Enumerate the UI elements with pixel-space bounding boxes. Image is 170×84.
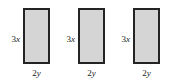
rectangle-3-shape <box>133 8 160 64</box>
rectangle-2-width-variable: y <box>92 68 96 78</box>
rectangle-1-shape <box>23 8 50 64</box>
rectangle-3-height-label: 3x <box>114 33 130 45</box>
rectangle-1-height-variable: x <box>16 34 20 44</box>
rectangle-3-height-variable: x <box>126 34 130 44</box>
geometry-figure: 3x 2y 3x 2y 3x 2y <box>0 0 170 84</box>
rectangle-1-width-variable: y <box>37 68 41 78</box>
rectangle-2-width-label: 2y <box>76 67 107 79</box>
rectangle-3-width-variable: y <box>147 68 151 78</box>
rectangle-2-height-variable: x <box>71 34 75 44</box>
rectangle-1-width-label: 2y <box>21 67 52 79</box>
rectangle-3-width-label: 2y <box>131 67 162 79</box>
rectangle-group-3: 3x 2y <box>111 0 170 84</box>
rectangle-2-shape <box>78 8 105 64</box>
rectangle-2-height-label: 3x <box>59 33 75 45</box>
rectangle-group-1: 3x 2y <box>0 0 56 84</box>
rectangle-group-2: 3x 2y <box>56 0 111 84</box>
rectangle-1-height-label: 3x <box>4 33 20 45</box>
